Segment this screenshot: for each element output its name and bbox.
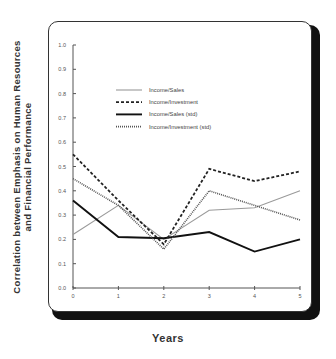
y-tick-label: 0.8	[58, 91, 66, 97]
x-tick-label: 0	[71, 293, 74, 299]
x-tick-label: 3	[208, 293, 211, 299]
x-tick-label: 1	[117, 293, 120, 299]
series-line-income-sales	[73, 191, 300, 240]
legend-label: Income/Sales	[149, 87, 184, 93]
x-tick-label: 4	[253, 293, 256, 299]
y-tick-label: 0.9	[58, 66, 66, 72]
legend-label: Income/Investment	[149, 99, 198, 105]
axes: 0.00.10.20.30.40.50.60.70.80.91.0012345	[58, 42, 301, 299]
series-lines	[73, 154, 300, 251]
x-axis-title: Years	[0, 332, 336, 344]
y-tick-label: 0.3	[58, 212, 66, 218]
y-tick-label: 1.0	[58, 42, 66, 48]
legend-label: Income/Investment (std)	[149, 124, 211, 130]
y-tick-label: 0.5	[58, 164, 66, 170]
legend: Income/SalesIncome/InvestmentIncome/Sale…	[116, 87, 211, 130]
legend-label: Income/Sales (std)	[149, 111, 197, 117]
y-tick-label: 0.2	[58, 236, 66, 242]
y-axis-title-line-2: and Financial Performance	[22, 27, 33, 307]
y-axis-title-line-1: Correlation between Emphasis on Human Re…	[11, 27, 22, 307]
y-axis-title: Correlation between Emphasis on Human Re…	[11, 27, 33, 307]
x-tick-label: 5	[298, 293, 301, 299]
line-chart: 0.00.10.20.30.40.50.60.70.80.91.0012345 …	[0, 0, 336, 359]
series-line-income-investment	[73, 154, 300, 244]
y-tick-label: 0.6	[58, 139, 66, 145]
y-tick-label: 0.1	[58, 261, 66, 267]
x-tick-label: 2	[162, 293, 165, 299]
y-tick-label: 0.4	[58, 188, 66, 194]
y-tick-label: 0.7	[58, 115, 66, 121]
y-tick-label: 0.0	[58, 285, 66, 291]
series-line-income-investment-std	[73, 179, 300, 250]
